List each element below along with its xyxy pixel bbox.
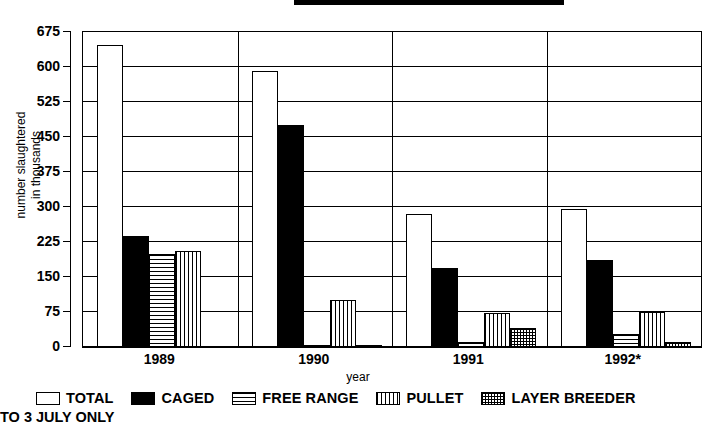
y-axis-tick-label: 0 xyxy=(18,339,60,353)
bar xyxy=(175,251,201,347)
bar xyxy=(561,209,587,347)
group-separator xyxy=(547,32,548,347)
y-axis-tick-label: 75 xyxy=(18,304,60,318)
chart-legend: TOTALCAGEDFREE RANGEPULLETLAYER BREEDER xyxy=(36,388,696,408)
y-axis-tick-mark xyxy=(63,31,71,32)
legend-item: LAYER BREEDER xyxy=(481,390,635,406)
x-axis-tick-label: 1991 xyxy=(391,352,546,366)
y-axis-line xyxy=(70,31,71,347)
y-axis-tick-labels: 075150225300375450525600675 xyxy=(12,0,60,431)
legend-swatch-free-range xyxy=(232,392,256,405)
legend-item: PULLET xyxy=(376,390,463,406)
plot-area xyxy=(82,31,702,348)
bar xyxy=(587,260,613,347)
bar xyxy=(304,345,330,347)
legend-swatch-caged xyxy=(131,392,155,405)
legend-label: CAGED xyxy=(161,390,214,406)
legend-label: FREE RANGE xyxy=(262,390,358,406)
footnote-text: TO 3 JULY ONLY xyxy=(0,409,114,425)
bar xyxy=(432,268,458,347)
legend-label: LAYER BREEDER xyxy=(511,390,635,406)
bar xyxy=(665,342,691,347)
bar xyxy=(356,345,382,347)
y-axis-tick-mark xyxy=(63,311,71,312)
bar xyxy=(510,328,536,347)
bar xyxy=(639,312,665,347)
x-axis-tick-label: 1990 xyxy=(237,352,392,366)
y-axis-tick-mark xyxy=(63,241,71,242)
group-separator xyxy=(392,32,393,347)
bar xyxy=(613,334,639,347)
bar xyxy=(278,125,304,347)
y-axis-tick-label: 450 xyxy=(18,129,60,143)
legend-item: FREE RANGE xyxy=(232,390,358,406)
legend-item: TOTAL xyxy=(36,390,113,406)
bar xyxy=(484,313,510,347)
bar xyxy=(330,300,356,347)
group-separator xyxy=(238,32,239,347)
y-axis-tick-mark xyxy=(63,206,71,207)
y-axis-tick-label: 300 xyxy=(18,199,60,213)
bar xyxy=(252,71,278,347)
y-axis-tick-label: 225 xyxy=(18,234,60,248)
y-axis-tick-label: 675 xyxy=(18,24,60,38)
legend-swatch-layer-breeder xyxy=(481,392,505,405)
legend-label: PULLET xyxy=(406,390,463,406)
bar xyxy=(458,342,484,347)
y-axis-tick-label: 600 xyxy=(18,59,60,73)
legend-swatch-total xyxy=(36,392,60,405)
y-axis-tick-mark xyxy=(63,276,71,277)
legend-swatch-pullet xyxy=(376,392,400,405)
bar xyxy=(149,254,175,347)
y-axis-tick-label: 525 xyxy=(18,94,60,108)
bar xyxy=(406,214,432,347)
y-axis-tick-mark xyxy=(63,136,71,137)
y-axis-tick-mark xyxy=(63,66,71,67)
y-axis-tick-mark xyxy=(63,101,71,102)
y-axis-tick-mark xyxy=(63,171,71,172)
x-axis-tick-label: 1989 xyxy=(82,352,237,366)
y-axis-tick-mark xyxy=(63,346,71,347)
x-axis-title: year xyxy=(0,370,716,384)
bar xyxy=(123,236,149,347)
x-axis-tick-label: 1992* xyxy=(546,352,701,366)
bar xyxy=(97,45,123,347)
y-axis-tick-label: 150 xyxy=(18,269,60,283)
legend-label: TOTAL xyxy=(66,390,113,406)
y-axis-tick-label: 375 xyxy=(18,164,60,178)
legend-item: CAGED xyxy=(131,390,214,406)
top-header-bar xyxy=(294,0,564,5)
